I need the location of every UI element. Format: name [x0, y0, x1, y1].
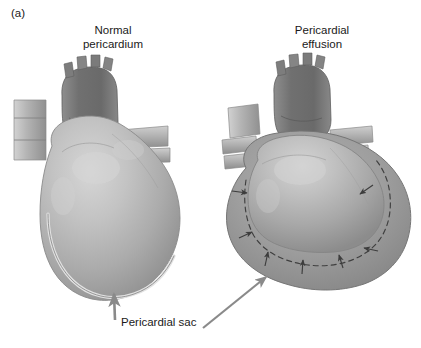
caption-pericardial-sac: Pericardial sac	[121, 316, 196, 330]
svc-stump-icon	[14, 100, 46, 160]
heart-highlight	[72, 152, 120, 184]
pericardial-sac-arrow-left	[114, 294, 115, 320]
normal-heart-group	[14, 55, 180, 300]
heart-highlight	[274, 155, 326, 185]
pericardial-sac-arrow-right	[203, 277, 266, 328]
title-normal-pericardium: Normal pericardium	[63, 24, 163, 51]
branch-stump-icon	[91, 55, 100, 67]
heart-highlight	[51, 177, 75, 215]
figure-container: (a) Normal pericardium Pericardial effus…	[0, 0, 421, 348]
heart-illustration	[0, 0, 421, 348]
panel-letter: (a)	[11, 7, 25, 21]
effusion-heart-group	[222, 53, 411, 290]
branch-stump-icon	[103, 57, 113, 71]
branch-stump-icon	[289, 54, 299, 68]
title-pericardial-effusion: Pericardial effusion	[272, 24, 372, 51]
svc-stump-icon	[228, 104, 260, 138]
heart-highlight	[256, 179, 280, 213]
branch-stump-icon	[64, 62, 74, 78]
branch-stump-icon	[77, 56, 87, 70]
heart-highlight	[112, 140, 144, 160]
branch-stump-icon	[276, 60, 286, 76]
branch-stump-icon	[303, 53, 312, 65]
